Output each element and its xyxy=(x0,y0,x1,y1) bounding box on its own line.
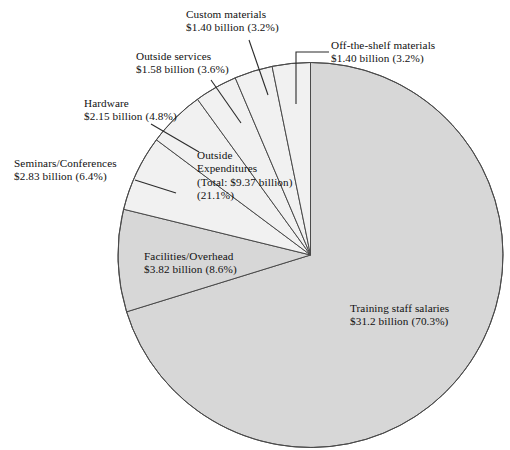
slice-label-custom-materials-value: $1.40 billion (3.2%) xyxy=(186,21,279,34)
slice-label-seminars-conferences-value: $2.83 billion (6.4%) xyxy=(14,170,117,183)
slice-label-training-staff-salaries-value: $31.2 billion (70.3%) xyxy=(350,315,449,328)
slice-label-training-staff-salaries-name: Training staff salaries xyxy=(350,302,449,315)
slice-label-training-staff-salaries: Training staff salaries $31.2 billion (7… xyxy=(350,302,449,329)
slice-label-outside-services: Outside services $1.58 billion (3.6%) xyxy=(136,50,229,77)
slice-label-seminars-conferences-name: Seminars/Conferences xyxy=(14,157,117,170)
pie-chart-canvas xyxy=(0,0,510,450)
slice-label-outside-services-name: Outside services xyxy=(136,50,229,63)
slice-label-hardware-value: $2.15 billion (4.8%) xyxy=(84,110,177,123)
slice-label-custom-materials: Custom materials $1.40 billion (3.2%) xyxy=(186,8,279,35)
slice-label-off-the-shelf-materials-value: $1.40 billion (3.2%) xyxy=(331,52,435,65)
slice-label-facilities-overhead: Facilities/Overhead $3.82 billion (8.6%) xyxy=(144,250,237,277)
group-label-outside-expenditures: Outside Expenditures (Total: $9.37 billi… xyxy=(197,149,293,202)
slice-label-hardware-name: Hardware xyxy=(84,97,177,110)
slice-label-off-the-shelf-materials: Off-the-shelf materials $1.40 billion (3… xyxy=(331,39,435,66)
slice-label-facilities-overhead-name: Facilities/Overhead xyxy=(144,250,237,263)
group-label-outside-expenditures-title-line2: Expenditures xyxy=(197,162,293,175)
group-label-outside-expenditures-percent: (21.1%) xyxy=(197,189,293,202)
slice-label-facilities-overhead-value: $3.82 billion (8.6%) xyxy=(144,263,237,276)
group-label-outside-expenditures-title-line1: Outside xyxy=(197,149,293,162)
pie-chart: Custom materials $1.40 billion (3.2%) Of… xyxy=(0,0,510,450)
slice-label-off-the-shelf-materials-name: Off-the-shelf materials xyxy=(331,39,435,52)
slice-label-outside-services-value: $1.58 billion (3.6%) xyxy=(136,63,229,76)
slice-label-custom-materials-name: Custom materials xyxy=(186,8,279,21)
slice-label-hardware: Hardware $2.15 billion (4.8%) xyxy=(84,97,177,124)
slice-label-seminars-conferences: Seminars/Conferences $2.83 billion (6.4%… xyxy=(14,157,117,184)
group-label-outside-expenditures-total: (Total: $9.37 billion) xyxy=(197,176,293,189)
